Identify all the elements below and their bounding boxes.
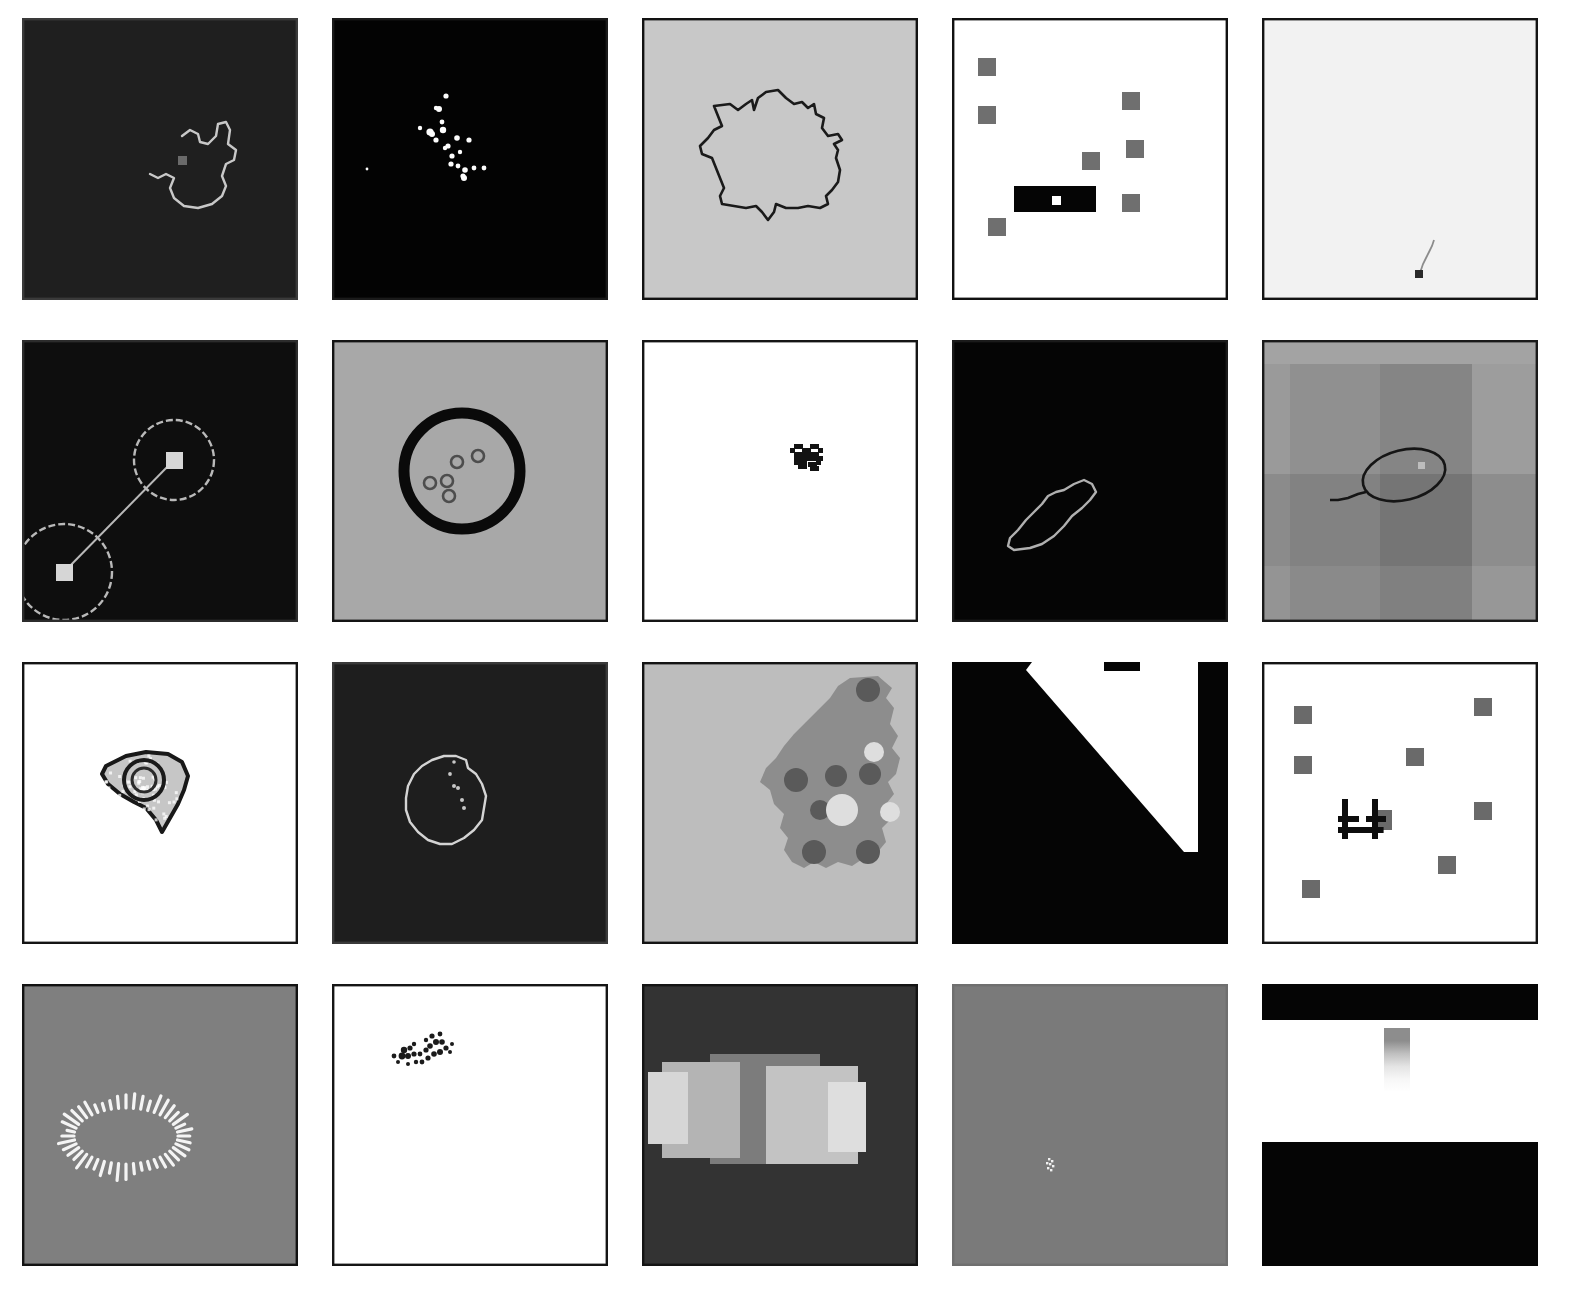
- blocky-gray-panel-ellipse-with-tail: [1262, 340, 1538, 622]
- white-panel-dark-dot-cluster: [332, 984, 608, 1266]
- gray-panel-tiny-bright-mark: [952, 984, 1228, 1266]
- white-panel-gray-squares-with-crosshair: [1262, 662, 1538, 944]
- white-panel-small-dark-blob: [642, 340, 918, 622]
- gray-panel-clustered-region-mask: [642, 662, 918, 944]
- black-panel-elongated-contour: [952, 340, 1228, 622]
- panel-grid: [0, 0, 1570, 1312]
- light-panel-closed-jagged-contour: [642, 18, 918, 300]
- black-panel-white-diagonal-band: [952, 662, 1228, 944]
- dark-panel-overlapping-bright-rectangles: [642, 984, 918, 1266]
- dark-panel-two-circles-linked: [22, 340, 298, 622]
- gray-panel-spiky-ring-cluster: [22, 984, 298, 1266]
- dark-panel-open-contour-with-dot: [22, 18, 298, 300]
- dark-panel-round-contour-with-speckles: [332, 662, 608, 944]
- white-panel-textured-wedge-with-ring: [22, 662, 298, 944]
- banded-panel-gray-gradient-block: [1262, 984, 1538, 1266]
- offwhite-panel-short-track-to-square: [1262, 18, 1538, 300]
- gray-panel-thick-circle-with-inner-dots: [332, 340, 608, 622]
- white-panel-gray-squares-with-black-bar: [952, 18, 1228, 300]
- black-panel-bright-point-cluster: [332, 18, 608, 300]
